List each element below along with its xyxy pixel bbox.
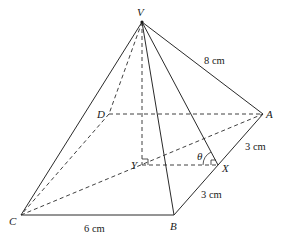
label-c: C — [9, 215, 17, 227]
label-theta: θ — [197, 150, 203, 162]
edge-vd — [109, 22, 142, 114]
edge-vb — [142, 22, 174, 215]
label-v: V — [137, 6, 145, 18]
edge-va — [142, 22, 263, 114]
pyramid-diagram: V A B C D X Y θ 8 cm 3 cm 3 cm 6 cm — [0, 0, 282, 240]
length-ax: 3 cm — [245, 141, 266, 152]
label-y: Y — [131, 159, 139, 171]
label-x: X — [221, 162, 230, 174]
label-a: A — [265, 108, 273, 120]
angle-arc-theta — [203, 152, 211, 165]
apex-point — [140, 20, 143, 23]
length-xb: 3 cm — [201, 189, 222, 200]
edge-vc — [21, 22, 142, 215]
length-cb: 6 cm — [84, 223, 105, 234]
label-d: D — [96, 108, 105, 120]
edge-dc — [21, 114, 109, 215]
length-va: 8 cm — [204, 55, 225, 66]
label-b: B — [170, 220, 177, 232]
